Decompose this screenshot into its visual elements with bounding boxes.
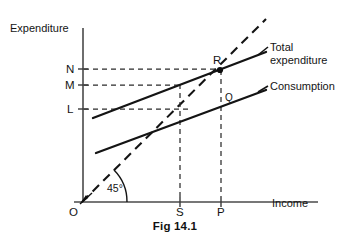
x-tick-label-s: S xyxy=(176,206,184,218)
point-label-r: R xyxy=(213,54,221,66)
point-r-marker xyxy=(217,67,223,73)
figure-caption: Fig 14.1 xyxy=(0,220,350,232)
total-expenditure-label-line1: Total xyxy=(270,41,293,53)
point-label-q: Q xyxy=(225,92,233,103)
figure-container: Expenditure Income N M L S P O R Q 45° T… xyxy=(0,0,350,243)
economics-line-chart: Expenditure Income N M L S P O R Q 45° T… xyxy=(0,0,350,243)
consumption-line xyxy=(96,90,266,153)
consumption-label: Consumption xyxy=(270,80,335,92)
total-expenditure-label-line2: expenditure xyxy=(270,54,328,66)
y-tick-label-m: M xyxy=(65,79,75,91)
x-tick-label-p: P xyxy=(217,206,225,218)
angle-label: 45° xyxy=(107,182,123,194)
y-tick-label-n: N xyxy=(66,63,74,75)
y-axis-label: Expenditure xyxy=(10,22,69,34)
y-tick-label-l: L xyxy=(67,103,74,115)
total-expenditure-line xyxy=(93,52,266,118)
x-axis-label: Income xyxy=(272,197,308,209)
origin-label: O xyxy=(69,206,78,218)
